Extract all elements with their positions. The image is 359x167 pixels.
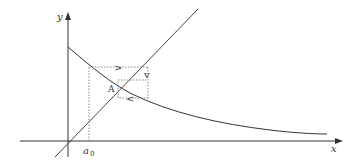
arrow-right-icon: > xyxy=(114,62,122,73)
decay-curve xyxy=(68,47,327,134)
cobweb-path xyxy=(89,67,148,141)
arrow-left-icon: < xyxy=(126,93,134,104)
y-axis-label: y xyxy=(56,11,63,22)
fixed-point-label: A xyxy=(107,84,115,94)
identity-line xyxy=(55,9,198,157)
y-axis-arrow-icon xyxy=(65,12,71,20)
arrow-down-icon: v xyxy=(143,69,150,80)
a0-base: a xyxy=(83,145,89,156)
x-axis-label: x xyxy=(331,143,337,154)
cobweb-diagram: > v < y x A a 0 xyxy=(0,0,359,167)
a0-label: a 0 xyxy=(83,145,94,158)
y-axis xyxy=(65,12,71,157)
a0-subscript: 0 xyxy=(90,150,94,158)
